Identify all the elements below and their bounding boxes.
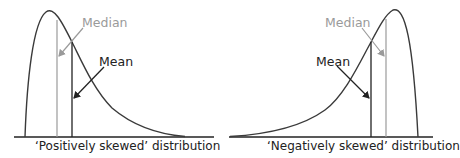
caption-positive: ‘Positively skewed’ distribution [35,139,220,153]
caption-negative: ‘Negatively skewed’ distribution [267,139,460,153]
median-label: Median [325,16,370,30]
mean-label: Mean [99,55,133,69]
mean-label: Mean [316,55,350,69]
distribution-curve [230,10,418,137]
median-label: Median [82,16,127,30]
median-arrow [59,28,83,56]
